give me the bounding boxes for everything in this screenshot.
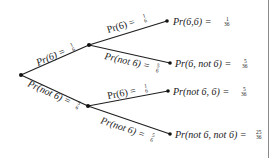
svg-text:6: 6 xyxy=(143,17,148,24)
svg-text:36: 36 xyxy=(256,134,262,140)
node-lower xyxy=(86,104,90,108)
probability-tree-diagram: Pr(6) = 1 6 Pr(not 6) = 5 6 Pr(6) = 1 6 … xyxy=(0,0,270,158)
branch-label-root-lower: Pr(not 6) = 5 6 xyxy=(25,77,82,111)
svg-text:Pr(6) =: Pr(6) = xyxy=(105,16,136,36)
svg-text:6: 6 xyxy=(149,136,154,143)
svg-text:36: 36 xyxy=(242,63,248,69)
outcome-label-3: Pr(not 6, 6) = 5 36 xyxy=(172,86,247,98)
svg-text:Pr(not 6, not 6) =: Pr(not 6, not 6) = xyxy=(174,129,246,141)
svg-text:36: 36 xyxy=(224,21,230,27)
svg-text:6: 6 xyxy=(71,46,76,53)
svg-text:Pr(not 6, 6) =: Pr(not 6, 6) = xyxy=(172,86,229,98)
branch-label-lower-leaf4: Pr(not 6) = 5 6 xyxy=(98,114,156,144)
svg-text:6: 6 xyxy=(155,67,159,74)
svg-text:6: 6 xyxy=(75,104,80,111)
branch-label-root-upper: Pr(6) = 1 6 xyxy=(33,41,76,69)
node-upper xyxy=(87,43,91,47)
outcome-label-1: Pr(6,6) = 1 36 xyxy=(172,16,230,28)
node-leaf-1 xyxy=(165,19,169,23)
branch-label-upper-leaf2: Pr(not 6) = 5 6 xyxy=(102,50,160,75)
svg-text:Pr(6) =: Pr(6) = xyxy=(33,45,67,69)
svg-text:36: 36 xyxy=(241,91,247,97)
svg-text:Pr(not 6) =: Pr(not 6) = xyxy=(25,77,73,107)
node-leaf-4 xyxy=(168,132,172,136)
node-leaf-2 xyxy=(168,61,172,65)
branch-label-upper-leaf1: Pr(6) = 1 6 xyxy=(105,12,148,35)
node-leaf-3 xyxy=(166,89,170,93)
svg-text:Pr(6,6) =: Pr(6,6) = xyxy=(172,16,211,28)
outcome-label-2: Pr(6, not 6) = 5 36 xyxy=(174,58,248,70)
node-root xyxy=(19,73,23,77)
svg-text:Pr(6, not 6) =: Pr(6, not 6) = xyxy=(174,58,231,70)
svg-text:6: 6 xyxy=(145,87,149,93)
outcome-label-4: Pr(not 6, not 6) = 25 36 xyxy=(174,129,262,141)
